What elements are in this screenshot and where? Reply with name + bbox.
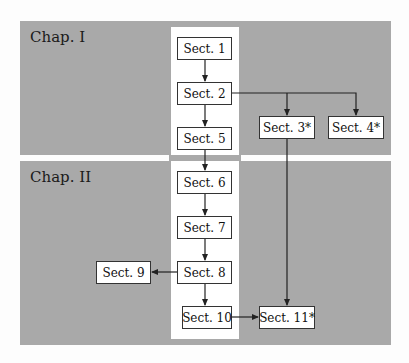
section-11-box: Sect. 11*	[259, 306, 315, 329]
arrow-s2-s4	[232, 93, 356, 115]
section-9-box: Sect. 9	[96, 261, 151, 284]
section-10-box: Sect. 10	[182, 306, 232, 329]
section-8-box: Sect. 8	[177, 261, 232, 284]
section-6-box: Sect. 6	[177, 171, 232, 194]
section-5-box: Sect. 5	[177, 127, 232, 150]
section-1-box: Sect. 1	[177, 37, 232, 60]
section-4-box: Sect. 4*	[328, 116, 384, 139]
section-7-box: Sect. 7	[177, 216, 232, 239]
section-3-box: Sect. 3*	[259, 116, 315, 139]
section-2-box: Sect. 2	[177, 82, 232, 105]
